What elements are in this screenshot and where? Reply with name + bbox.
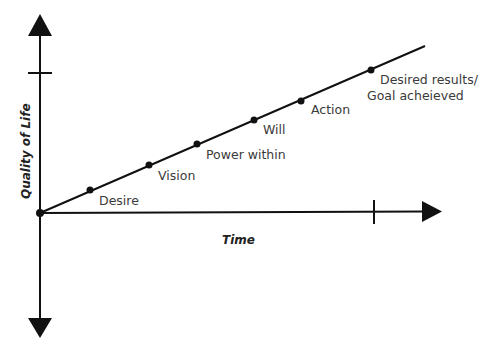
x-axis-right-arrow-icon — [422, 201, 442, 222]
x-axis-label: Time — [222, 233, 255, 247]
life-progress-diagram: Desire Vision Power within Will Action D… — [0, 0, 487, 351]
milestone-dot-desired-results — [368, 67, 375, 74]
milestone-dot-action — [298, 98, 305, 105]
y-axis-down-arrow-icon — [28, 318, 52, 338]
milestone-dot-power-within — [194, 141, 201, 148]
progress-line — [40, 46, 425, 213]
y-axis-up-arrow-icon — [28, 14, 52, 36]
milestone-label-vision: Vision — [158, 168, 195, 183]
milestone-dot-will — [251, 117, 258, 124]
milestone-dot-vision — [146, 162, 153, 169]
milestone-label-desire: Desire — [99, 193, 139, 208]
milestone-label-power-within: Power within — [206, 147, 286, 162]
milestone-label-will: Will — [263, 122, 286, 137]
milestone-label-goal-achieved: Goal acheieved — [367, 88, 464, 103]
milestone-label-action: Action — [311, 102, 350, 117]
milestone-dot-origin — [36, 209, 44, 217]
x-axis — [40, 212, 424, 214]
milestone-label-desired-results: Desired results/ — [380, 72, 479, 87]
milestone-dot-desire — [87, 187, 94, 194]
y-axis-label: Quality of Life — [19, 103, 33, 199]
